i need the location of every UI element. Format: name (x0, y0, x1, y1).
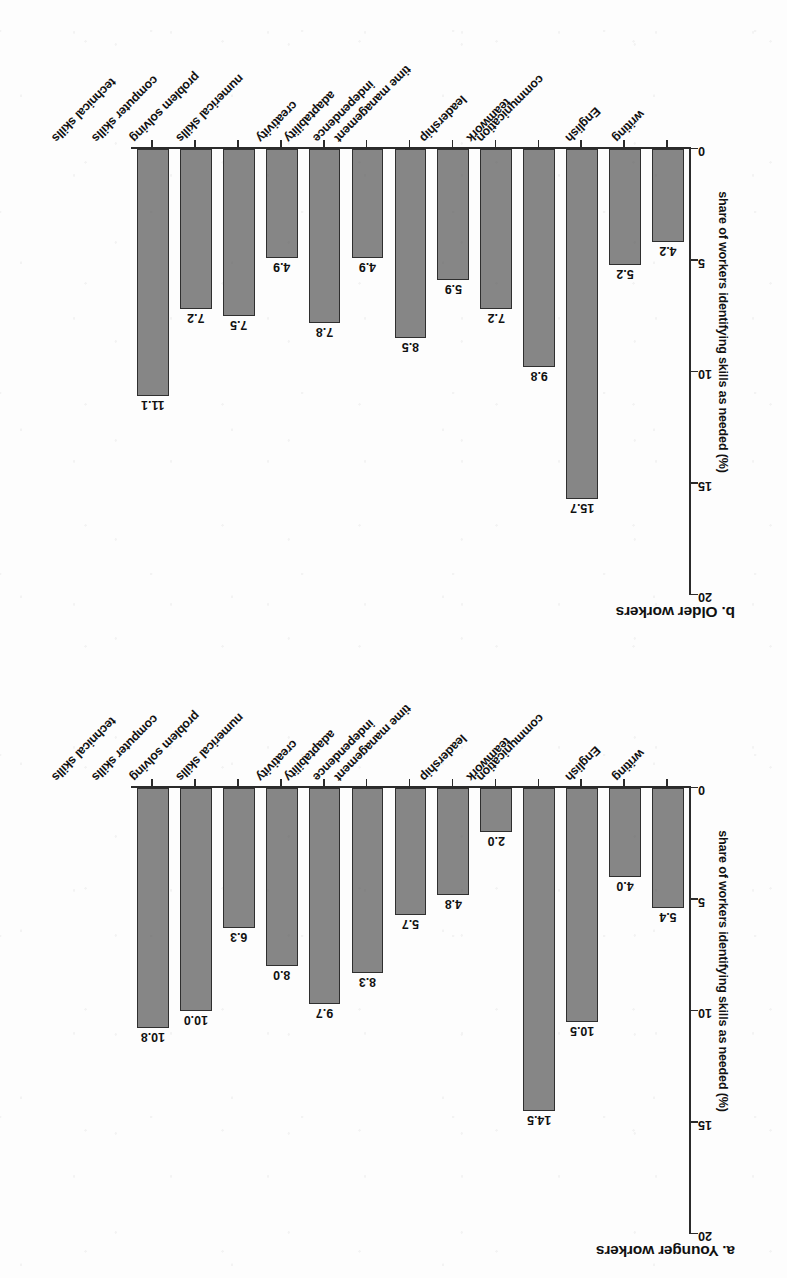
bar-value-label: 6.3 (230, 930, 247, 944)
bar: 4.9 (352, 149, 384, 258)
chart-a-category-labels: writingEnglishcommunicationteamworkleade… (131, 644, 691, 784)
chart-panel-older-workers: b. Older workers share of workers identi… (0, 0, 787, 639)
bar: 15.7 (566, 149, 598, 499)
chart-a-plot-area: 05101520 5.44.010.514.52.04.85.78.39.78.… (131, 786, 691, 1234)
bar-value-label: 5.9 (445, 282, 462, 296)
bar-value-label: 2.0 (488, 834, 505, 848)
chart-a-bars: 5.44.010.514.52.04.85.78.39.78.06.310.01… (131, 788, 689, 1234)
y-axis-tick-label: 5 (698, 256, 705, 270)
bar-value-label: 9.8 (531, 369, 548, 383)
bar-slot: 8.0 (260, 788, 303, 1234)
y-axis-tick: 20 (691, 1233, 698, 1235)
bar: 7.2 (180, 149, 212, 310)
bar: 9.8 (523, 149, 555, 368)
scanned-page: a. Younger workers share of workers iden… (0, 0, 787, 1278)
bar-value-label: 4.9 (273, 260, 290, 274)
bar-value-label: 5.7 (402, 917, 419, 931)
y-axis-tick-label: 5 (698, 895, 705, 909)
bar-slot: 10.5 (561, 788, 604, 1234)
bar-slot: 7.2 (174, 149, 217, 595)
y-axis-tick: 15 (691, 482, 698, 484)
y-axis-tick: 10 (691, 371, 698, 373)
y-axis-tick-label: 15 (698, 1118, 712, 1132)
bar-value-label: 4.2 (659, 244, 676, 258)
bar-slot: 4.9 (346, 149, 389, 595)
bar: 10.5 (566, 788, 598, 1022)
bar-slot: 5.2 (604, 149, 647, 595)
bar-value-label: 4.0 (616, 879, 633, 893)
bar-slot: 8.5 (389, 149, 432, 595)
bar: 4.8 (437, 788, 469, 895)
bar: 5.4 (652, 788, 684, 908)
bar: 11.1 (137, 149, 169, 397)
bar-value-label: 10.5 (570, 1024, 594, 1038)
y-axis-tick-label: 10 (698, 1006, 712, 1020)
y-axis-tick: 5 (691, 898, 698, 900)
bar-slot: 7.5 (217, 149, 260, 595)
bar-slot: 10.8 (131, 788, 174, 1234)
y-axis-tick: 20 (691, 594, 698, 596)
bar-slot: 4.9 (260, 149, 303, 595)
bar-value-label: 8.0 (273, 968, 290, 982)
bar-slot: 11.1 (131, 149, 174, 595)
bar-value-label: 7.8 (316, 325, 333, 339)
bar: 8.5 (395, 149, 427, 339)
chart-b-bars: 4.25.215.79.87.25.98.54.97.84.97.57.211.… (131, 149, 689, 595)
chart-b-plot-area: 05101520 4.25.215.79.87.25.98.54.97.84.9… (131, 147, 691, 595)
category-label: English (563, 743, 604, 784)
bar-slot: 10.0 (174, 788, 217, 1234)
bar-slot: 5.4 (646, 788, 689, 1234)
bar: 4.9 (266, 149, 298, 258)
y-axis-tick: 10 (691, 1010, 698, 1012)
bar-slot: 5.9 (432, 149, 475, 595)
bar: 10.8 (137, 788, 169, 1029)
category-label: leadership (417, 732, 469, 784)
bar-slot: 15.7 (561, 149, 604, 595)
bar-value-label: 7.2 (488, 311, 505, 325)
chart-b-y-axis-label: share of workers identifying skills as n… (716, 122, 730, 542)
bar-value-label: 10.8 (141, 1030, 165, 1044)
category-label: communication (474, 711, 547, 784)
bar-value-label: 10.0 (184, 1013, 208, 1027)
bar-value-label: 5.2 (616, 267, 633, 281)
chart-panel-younger-workers: a. Younger workers share of workers iden… (0, 639, 787, 1278)
bar-slot: 9.7 (303, 788, 346, 1234)
bar: 4.0 (609, 788, 641, 877)
bar-value-label: 7.2 (187, 311, 204, 325)
bar-slot: 9.8 (518, 149, 561, 595)
bar: 5.2 (609, 149, 641, 265)
bar: 7.8 (309, 149, 341, 323)
bar-value-label: 4.8 (445, 897, 462, 911)
bar-slot: 2.0 (475, 788, 518, 1234)
category-label: writing (610, 107, 648, 145)
y-axis-tick-label: 0 (698, 783, 705, 797)
y-axis-tick-label: 10 (698, 367, 712, 381)
chart-b-category-labels: writingEnglishcommunicationteamworkleade… (131, 5, 691, 145)
bar: 7.5 (223, 149, 255, 316)
bar: 8.0 (266, 788, 298, 966)
bar-slot: 4.2 (646, 149, 689, 595)
bar-value-label: 4.9 (359, 260, 376, 274)
bar-slot: 8.3 (346, 788, 389, 1234)
bar: 9.7 (309, 788, 341, 1004)
bar: 14.5 (523, 788, 555, 1111)
y-axis-tick-label: 0 (698, 144, 705, 158)
bar-slot: 14.5 (518, 788, 561, 1234)
bar-value-label: 5.4 (659, 910, 676, 924)
y-axis-tick: 15 (691, 1121, 698, 1123)
bar: 8.3 (352, 788, 384, 973)
chart-a-y-axis-label: share of workers identifying skills as n… (716, 761, 730, 1181)
y-axis-tick-label: 20 (698, 1229, 712, 1243)
chart-b-title: b. Older workers (616, 603, 735, 621)
y-axis-tick-label: 20 (698, 590, 712, 604)
bar-value-label: 7.5 (230, 318, 247, 332)
y-axis-tick: 0 (691, 148, 698, 150)
category-label: English (563, 104, 604, 145)
bar: 7.2 (480, 149, 512, 310)
bar-value-label: 14.5 (527, 1113, 551, 1127)
bar-slot: 4.8 (432, 788, 475, 1234)
bar: 4.2 (652, 149, 684, 243)
bar-value-label: 8.5 (402, 340, 419, 354)
bar-slot: 7.8 (303, 149, 346, 595)
category-label: writing (610, 746, 648, 784)
